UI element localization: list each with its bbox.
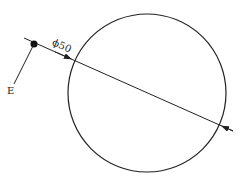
diagram-canvas: ϕ50 E xyxy=(0,0,241,177)
point-label: E xyxy=(7,85,14,96)
dimension-arrow-right xyxy=(222,126,233,131)
leader-line xyxy=(14,44,34,84)
